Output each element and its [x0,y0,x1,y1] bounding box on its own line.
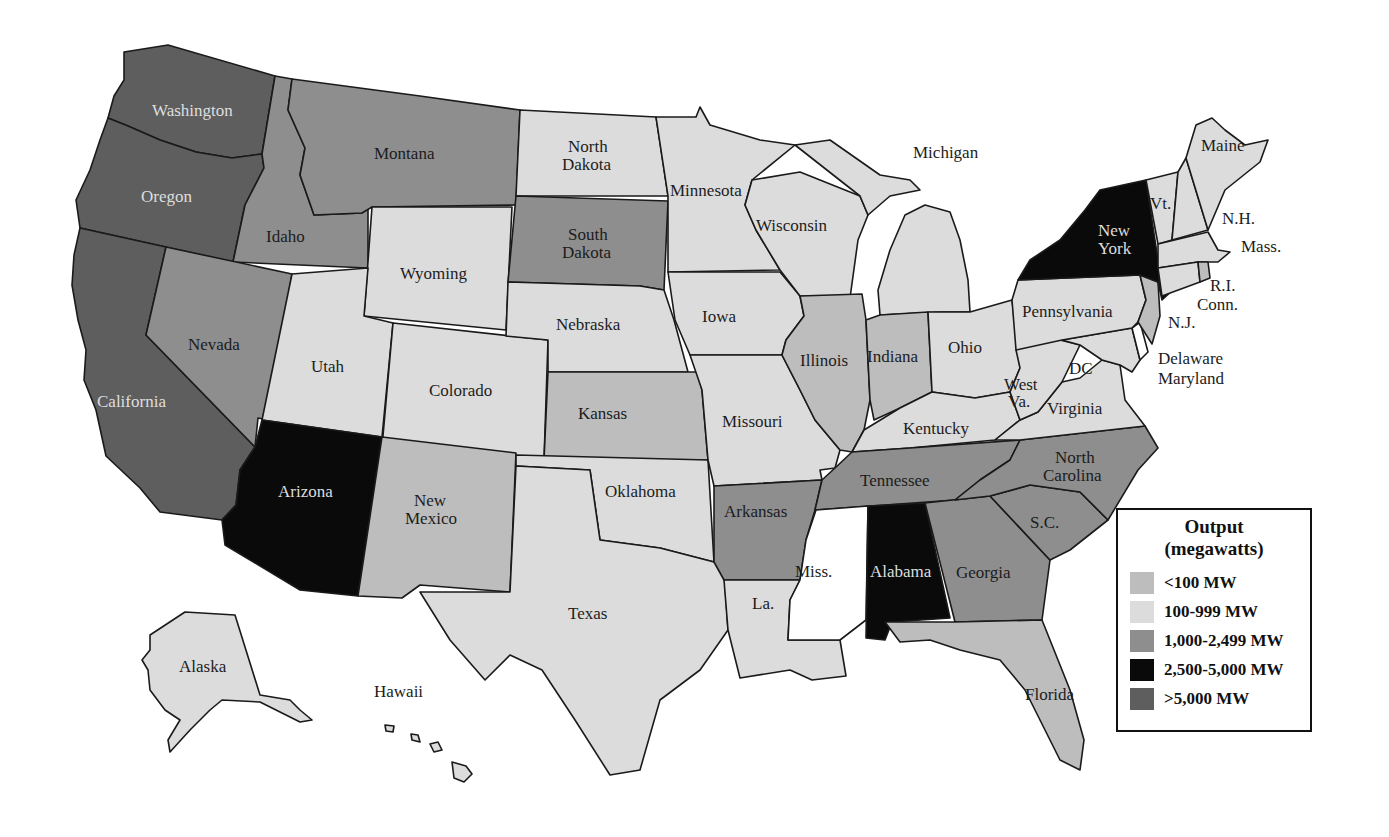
label-texas: Texas [568,604,607,623]
label-vermont: Vt. [1150,194,1171,213]
state-michigan-lower[interactable] [878,205,970,315]
legend-item-gt5000: >5,000 MW [1130,684,1310,713]
label-alabama: Alabama [870,562,932,581]
label-minnesota: Minnesota [670,181,742,200]
legend-title-line1: Output [1118,516,1310,538]
label-washington: Washington [152,101,233,120]
label-georgia: Georgia [956,563,1011,582]
label-rhode-island: R.I. [1210,276,1236,295]
label-utah: Utah [311,357,345,376]
label-kansas: Kansas [578,404,627,423]
label-tennessee: Tennessee [860,471,930,490]
legend-label: 1,000-2,499 MW [1164,631,1283,651]
label-missouri: Missouri [722,412,783,431]
state-connecticut[interactable] [1158,262,1200,296]
label-connecticut: Conn. [1197,295,1238,314]
label-idaho: Idaho [266,227,305,246]
legend-label: 100-999 MW [1164,602,1258,622]
label-indiana: Indiana [867,347,918,366]
label-montana: Montana [374,144,435,163]
legend-label: 2,500-5,000 MW [1164,660,1283,680]
label-massachusetts: Mass. [1241,237,1281,256]
label-arkansas: Arkansas [724,502,787,521]
label-wyoming: Wyoming [400,264,467,283]
state-alaska[interactable] [142,612,312,752]
label-illinois: Illinois [800,351,848,370]
label-new-york-1: New [1098,221,1131,240]
legend-swatch-icon [1130,659,1154,681]
label-virginia: Virginia [1047,399,1103,418]
label-mississippi: Miss. [795,562,832,581]
label-south-dakota-2: Dakota [562,243,612,262]
label-wisconsin: Wisconsin [756,216,828,235]
label-maryland: Maryland [1158,369,1225,388]
legend-swatch-icon [1130,601,1154,623]
label-south-dakota-1: South [568,225,608,244]
label-california: California [97,392,166,411]
label-north-carolina-1: North [1055,448,1095,467]
label-new-york-2: York [1098,239,1132,258]
legend-swatch-icon [1130,572,1154,594]
label-maine: Maine [1201,136,1244,155]
label-iowa: Iowa [702,307,736,326]
state-hawaii-maui[interactable] [430,742,442,752]
legend-item-2500-5000: 2,500-5,000 MW [1130,655,1310,684]
label-new-jersey: N.J. [1168,313,1195,332]
legend-title-line2: (megawatts) [1118,538,1310,560]
label-arizona: Arizona [278,482,333,501]
legend-title: Output (megawatts) [1118,516,1310,560]
legend-swatch-icon [1130,630,1154,652]
label-new-mexico-1: New [414,491,447,510]
legend-item-100-999: 100-999 MW [1130,597,1310,626]
state-hawaii-oahu[interactable] [411,734,420,742]
label-new-mexico-2: Mexico [405,509,457,528]
label-pennsylvania: Pennsylvania [1022,302,1113,321]
label-oregon: Oregon [141,187,192,206]
label-nebraska: Nebraska [556,315,621,334]
label-delaware: Delaware [1158,349,1223,368]
map-legend: Output (megawatts) <100 MW 100-999 MW 1,… [1116,508,1312,732]
legend-label: <100 MW [1164,573,1236,593]
label-ohio: Ohio [948,338,982,357]
label-north-dakota-1: North [568,137,608,156]
legend-label: >5,000 MW [1164,689,1249,709]
label-dc: DC [1069,359,1093,378]
legend-item-1000-2499: 1,000-2,499 MW [1130,626,1310,655]
label-north-carolina-2: Carolina [1043,466,1102,485]
state-hawaii-big-island[interactable] [452,762,472,782]
label-north-dakota-2: Dakota [562,155,612,174]
legend-item-lt100: <100 MW [1130,568,1310,597]
legend-swatch-icon [1130,688,1154,710]
state-rhode-island[interactable] [1198,262,1210,282]
label-new-hampshire: N.H. [1222,209,1255,228]
label-alaska: Alaska [179,657,227,676]
label-nevada: Nevada [188,335,240,354]
label-florida: Florida [1025,685,1075,704]
label-michigan: Michigan [913,143,979,162]
label-west-virginia-2: Va. [1008,392,1030,411]
label-kentucky: Kentucky [903,419,970,438]
label-hawaii: Hawaii [374,682,423,701]
label-south-carolina: S.C. [1030,513,1059,532]
state-iowa[interactable] [668,272,804,355]
label-oklahoma: Oklahoma [605,482,676,501]
state-hawaii-kauai[interactable] [385,725,394,732]
label-colorado: Colorado [429,381,492,400]
label-louisiana: La. [752,594,774,613]
